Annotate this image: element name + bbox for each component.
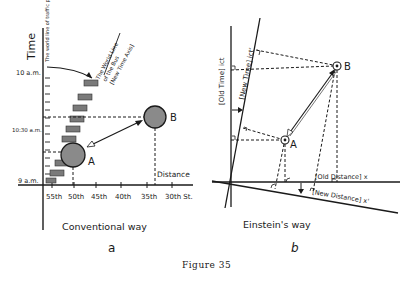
tick-30th: 30th St.: [165, 193, 193, 201]
tick-10am: 10 a.m.: [16, 69, 41, 77]
panel-a-letter: a: [108, 241, 115, 255]
panel-a-conventional: 55th 50th 45th 40th 35th 30th St. 10 a.m…: [12, 0, 193, 255]
tick-9am: 9 a.m.: [18, 177, 39, 185]
event-a-label: A: [290, 139, 297, 150]
tick-55th: 55th: [46, 193, 62, 201]
event-b-label: B: [170, 112, 177, 123]
tick-1030am: 10:30 a.m.: [12, 127, 42, 133]
tick-50th: 50th: [68, 193, 84, 201]
old-distance-axis-label: [Old Distance] x: [315, 173, 368, 181]
time-axis-label: Time: [25, 33, 38, 61]
event-b-circle: [144, 106, 166, 128]
policeman-worldline-label: The world line of traffic policeman: [44, 0, 51, 63]
new-time-axis-label: [New Time] ict': [238, 47, 256, 100]
new-distance-axis: [212, 181, 398, 213]
new-time-axis: [225, 18, 260, 208]
panel-b-letter: b: [291, 241, 299, 255]
event-a-circle: [61, 143, 85, 167]
tick-35th: 35th: [141, 193, 157, 201]
tick-45th: 45th: [91, 193, 107, 201]
panel-b-title: Einstein's way: [243, 219, 311, 230]
interval-arrow: [288, 71, 334, 135]
event-b-label: B: [344, 61, 351, 72]
street-tick-labels: 55th 50th 45th 40th 35th 30th St.: [46, 193, 193, 201]
interval-arrow: [89, 121, 141, 146]
figure-35-diagram: 55th 50th 45th 40th 35th 30th St. 10 a.m…: [0, 0, 412, 285]
old-time-axis-label: [Old Time] ict: [218, 57, 226, 105]
panel-a-title: Conventional way: [62, 221, 147, 232]
tick-40th: 40th: [115, 193, 131, 201]
time-tick-labels: 10 a.m. 10:30 a.m. 9 a.m.: [12, 69, 42, 185]
event-a-label: A: [88, 156, 95, 167]
curved-arrow: [47, 67, 92, 78]
policeman-worldline: [45, 78, 50, 174]
figure-caption: Figure 35: [182, 260, 231, 270]
distance-axis-label: Distance: [157, 170, 190, 179]
panel-b-einstein: [Old Time] ict [New Time] ict' [Old Dist…: [212, 18, 400, 255]
